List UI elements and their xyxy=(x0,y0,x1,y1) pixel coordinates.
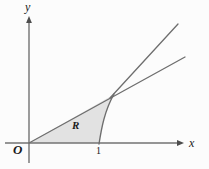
x-axis-label: x xyxy=(189,137,194,149)
region-label-r: R xyxy=(72,120,79,131)
lower-line-through-origin xyxy=(29,57,185,143)
y-axis-label: y xyxy=(25,1,30,13)
x-tick-label-one: 1 xyxy=(96,146,101,156)
x-axis-arrow-icon xyxy=(177,140,184,146)
math-figure: y x O R 1 xyxy=(0,0,209,169)
y-axis-arrow-icon xyxy=(26,16,32,23)
upper-steeper-line xyxy=(110,24,178,98)
origin-label: O xyxy=(13,143,22,156)
figure-canvas xyxy=(0,0,209,169)
